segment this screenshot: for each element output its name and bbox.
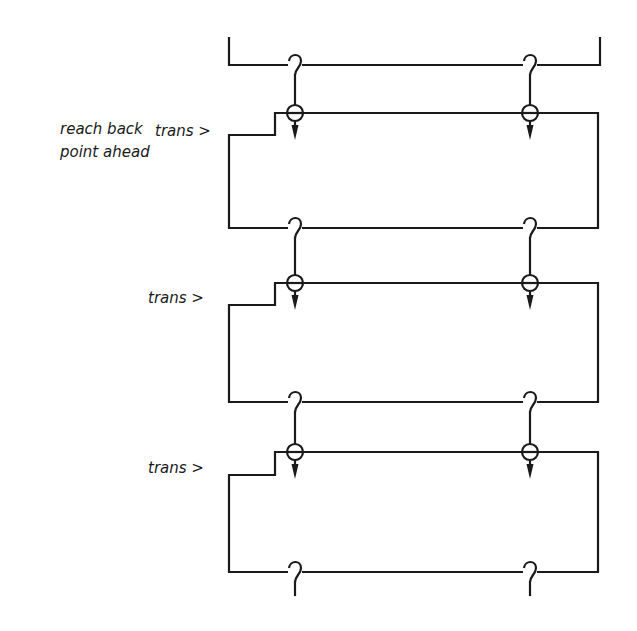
node-arrow-icon (287, 444, 303, 479)
hook-icon (523, 55, 537, 75)
hook-icon (523, 218, 537, 238)
bottom-tails (295, 582, 530, 595)
section-1-loop (229, 75, 598, 228)
hook-icon (523, 562, 537, 582)
section-3-loop (229, 412, 598, 572)
node-arrow-icon (287, 105, 303, 140)
node-arrow-icon (522, 444, 538, 479)
node-arrow-icon (522, 275, 538, 310)
node-arrow-icon (287, 275, 303, 310)
top-bracket (229, 38, 600, 65)
hook-icon (288, 562, 302, 582)
node-arrow-icon (522, 105, 538, 140)
section-2-loop (229, 238, 598, 402)
pipeline-diagram (0, 0, 637, 631)
hook-icon (288, 392, 302, 412)
hook-icon (288, 55, 302, 75)
hook-icon (523, 392, 537, 412)
node-icons (287, 105, 538, 479)
hook-icon (288, 218, 302, 238)
hook-icons (288, 55, 537, 582)
